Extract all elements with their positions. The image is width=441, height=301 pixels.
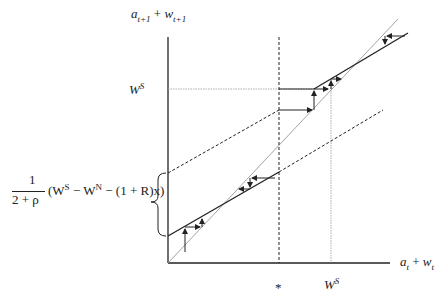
expr-open: (W [48,183,65,198]
ws-y-label: WS [129,81,144,98]
y-axis-label: at+1 + wt+1 [131,6,186,24]
x-axis-label: at + wt [400,254,434,272]
ws-x-label: WS [324,276,339,293]
frac-denominator: 2 + ρ [12,192,39,208]
upper-middle-stair-arrows [279,79,341,110]
x-label-w-sub: t [432,262,435,272]
y-label-plus: + [151,6,165,21]
diagram-canvas [0,0,441,301]
lower-map-solid [168,172,279,236]
y-label-w: w [164,6,173,21]
y-label-w-sub: t+1 [173,14,186,24]
y-label-a-sub: t+1 [138,14,151,24]
ws-y-main: W [129,82,140,97]
frac-numerator: 1 [29,172,36,188]
expr-mid: − W [70,183,96,198]
diagram: at+1 + wt+1 WS at + wt * WS 1 2 + ρ (WS … [0,0,441,301]
frac-den-text: 2 + ρ [12,192,39,207]
expr-end: − (1 + R)x) [102,183,164,198]
ws-x-main: W [324,277,335,292]
upper-map-solid [314,33,408,89]
ws-y-sup: S [140,81,145,91]
lower-middle-stair-arrows [239,178,275,189]
ws-x-sup: S [335,276,340,286]
x-label-plus: + [409,254,423,269]
frac-rest: (WS − WN − (1 + R)x) [48,182,164,199]
x-label-w: w [423,254,432,269]
star-label: * [275,280,282,296]
